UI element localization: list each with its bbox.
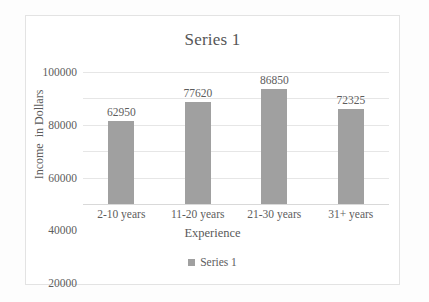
legend-swatch-series-1 — [188, 259, 195, 266]
bar-value-label: 77620 — [183, 87, 212, 99]
x-axis-tick-label: 2-10 years — [83, 208, 160, 220]
chart-page: Series 1 Income in Dollars 1000008000060… — [0, 0, 429, 302]
bar-group: 62950776208685072325 — [83, 72, 389, 204]
bar[interactable] — [338, 109, 364, 204]
bar[interactable] — [108, 121, 134, 204]
bar-slot: 86850 — [236, 72, 313, 204]
gridline: 0 — [83, 204, 389, 205]
bar-slot: 72325 — [313, 72, 390, 204]
bar-value-label: 86850 — [260, 74, 289, 86]
y-axis-tick-label: 100000 — [43, 66, 78, 78]
y-axis-tick-label: 60000 — [48, 172, 77, 184]
y-axis-title: Income in Dollars — [32, 62, 46, 207]
legend-label-series-1: Series 1 — [200, 256, 237, 268]
y-axis-tick-label: 20000 — [48, 277, 77, 289]
bar-slot: 62950 — [83, 72, 160, 204]
bar-slot: 77620 — [160, 72, 237, 204]
x-axis-tick-label: 21-30 years — [236, 208, 313, 220]
y-axis-tick-label: 80000 — [48, 119, 77, 131]
bar[interactable] — [185, 102, 211, 204]
chart-legend: Series 1 — [26, 256, 399, 268]
bar-value-label: 62950 — [107, 106, 136, 118]
x-axis-tick-label: 11-20 years — [160, 208, 237, 220]
plot-area: 100000800006000040000200000 629507762086… — [83, 72, 389, 204]
x-axis-title: Experience — [26, 226, 399, 241]
bar-value-label: 72325 — [336, 94, 365, 106]
x-axis-tick-labels: 2-10 years11-20 years21-30 years31+ year… — [83, 208, 389, 220]
x-axis-tick-label: 31+ years — [313, 208, 390, 220]
chart-title: Series 1 — [26, 30, 399, 50]
chart-frame: Series 1 Income in Dollars 1000008000060… — [25, 15, 400, 285]
bar[interactable] — [261, 89, 287, 204]
